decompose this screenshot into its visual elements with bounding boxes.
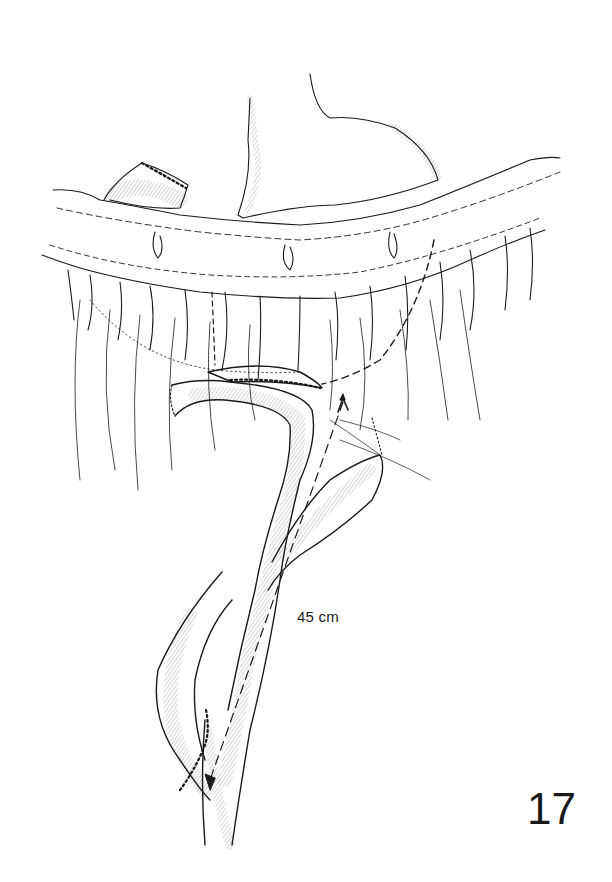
gastrojejunal-anastomosis [208,366,322,388]
surgical-illustration [0,0,612,882]
length-annotation: 45 cm [297,608,339,625]
measurement-arrow [205,394,348,790]
figure-page: 45 cm 17 [0,0,612,882]
figure-number: 17 [527,787,576,831]
duodenal-stump [104,163,188,208]
stomach-remnant [238,74,438,218]
mesocolon [75,240,480,490]
